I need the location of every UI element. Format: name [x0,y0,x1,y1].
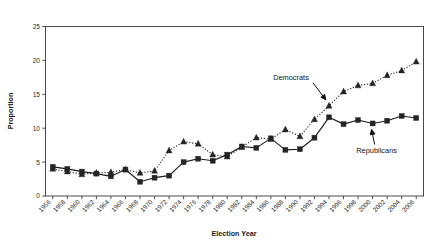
data-point-republicans [385,118,390,123]
y-tick-label: 15 [33,91,41,98]
y-tick-label: 5 [36,159,40,166]
y-tick-label: 20 [33,57,41,64]
annotation-label-republicans: Republicans [356,146,397,155]
data-point-republicans [399,114,404,119]
y-tick-label: 0 [36,192,40,199]
data-point-republicans [341,122,346,127]
data-point-republicans [370,121,375,126]
data-point-republicans [152,175,157,180]
annotation-label-democrats: Democrats [273,73,309,82]
data-point-republicans [312,135,317,140]
data-point-republicans [138,179,143,184]
proportion-by-election-year-chart: 0510152025 19561958196019621964196619681… [0,0,438,242]
y-axis-title: Proportion [6,93,15,130]
data-point-republicans [181,160,186,165]
chart-container: 0510152025 19561958196019621964196619681… [0,0,438,242]
data-point-republicans [254,145,259,150]
data-point-republicans [167,173,172,178]
y-tick-label: 10 [33,125,41,132]
y-tick-label: 25 [33,23,41,30]
data-point-republicans [196,156,201,161]
data-point-republicans [210,158,215,163]
data-point-republicans [356,118,361,123]
data-point-republicans [283,147,288,152]
x-axis-title: Election Year [211,229,256,238]
data-point-republicans [297,147,302,152]
plot-area-frame [46,27,424,197]
data-point-republicans [414,116,419,121]
data-point-republicans [327,115,332,120]
